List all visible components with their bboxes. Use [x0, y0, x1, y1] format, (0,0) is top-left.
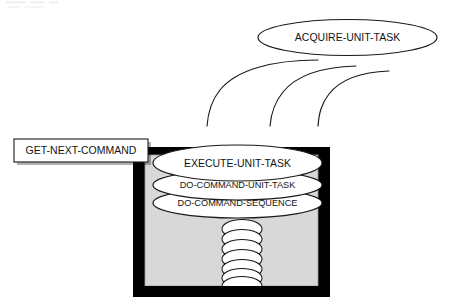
diagram-canvas: ACQUIRE-UNIT-TASK DO-COMMAND-SEQU	[0, 0, 450, 307]
arc-2	[270, 66, 356, 126]
get-next-command-label: GET-NEXT-COMMAND	[26, 144, 137, 156]
execution-frame-bottom-bar	[133, 286, 330, 297]
command-chain	[222, 220, 262, 296]
execute-unit-task-label: EXECUTE-UNIT-TASK	[184, 157, 291, 169]
node-get-next-command[interactable]: GET-NEXT-COMMAND	[14, 139, 151, 165]
node-acquire-unit-task[interactable]: ACQUIRE-UNIT-TASK	[258, 20, 437, 56]
scan-artifact	[6, 2, 58, 8]
diagram-scene: ACQUIRE-UNIT-TASK DO-COMMAND-SEQU	[0, 0, 450, 307]
acquire-unit-task-label: ACQUIRE-UNIT-TASK	[295, 31, 400, 43]
node-execute-unit-task[interactable]: EXECUTE-UNIT-TASK	[153, 145, 322, 181]
acquire-arcs	[207, 60, 389, 126]
arc-1	[207, 60, 318, 126]
arc-3	[318, 71, 389, 126]
